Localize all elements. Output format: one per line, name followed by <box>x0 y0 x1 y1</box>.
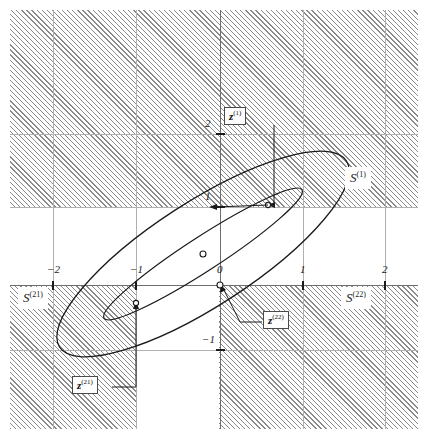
point-label-z22-sup: (22) <box>272 313 284 321</box>
point-label-z1[interactable]: z(1) <box>224 107 246 125</box>
point-marker-z21 <box>133 300 138 305</box>
leader-line-z1-branch <box>215 205 268 207</box>
leader-line-z22 <box>224 290 262 322</box>
point-label-z22[interactable]: z(22) <box>263 311 289 329</box>
point-marker-z22 <box>217 282 223 288</box>
point-label-z1-sup: (1) <box>233 109 241 117</box>
point-label-z21[interactable]: z(21) <box>72 376 98 394</box>
point-label-z21-sup: (21) <box>81 378 93 386</box>
region-label-s21: S(21) <box>18 287 48 309</box>
figure-canvas: −2 −1 0 1 2 2 1 −1 z(1) z(21) <box>0 0 427 439</box>
curve-overlay <box>0 0 427 439</box>
ellipse-center-marker <box>200 251 206 257</box>
leader-line-z1 <box>268 125 274 205</box>
region-label-s22-sup: (22) <box>353 290 366 299</box>
region-label-s21-sup: (21) <box>30 290 43 299</box>
region-label-s1: S(1) <box>345 167 371 189</box>
region-label-s22: S(22) <box>341 287 371 309</box>
region-label-s1-sup: (1) <box>357 170 366 179</box>
leader-arrow-z1-branch <box>209 204 217 210</box>
